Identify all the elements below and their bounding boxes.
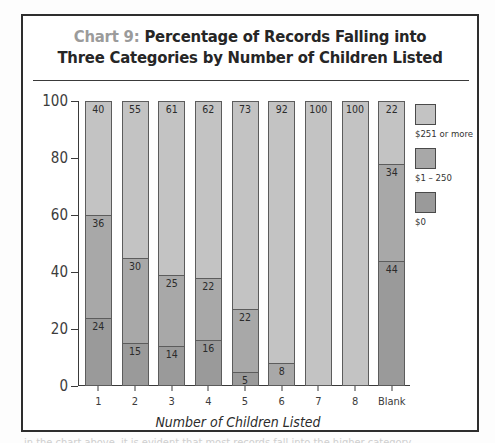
bar-slot: 5530152 (117, 101, 154, 386)
bar-segment-value: 25 (159, 277, 184, 289)
bar-segment-low[interactable]: 15 (122, 343, 149, 386)
bar-segment-value: 62 (196, 103, 221, 115)
bar-segment-high[interactable]: 22 (378, 101, 405, 164)
x-axis-tick (208, 386, 209, 391)
bar-segment-mid[interactable]: 36 (85, 215, 112, 318)
bar-segment-value: 8 (269, 365, 294, 377)
bar-segment-value: 24 (86, 320, 111, 332)
y-axis-line (78, 101, 79, 386)
stacked-bar[interactable]: 553015 (122, 101, 149, 386)
bar-slot: 6125143 (153, 101, 190, 386)
bar-segment-value: 5 (233, 374, 258, 386)
x-axis-title: Number of Children Listed (23, 414, 453, 430)
bar-segment-value: 22 (379, 103, 404, 115)
y-axis-label: 100 (42, 92, 68, 110)
bar-segment-high[interactable]: 62 (195, 101, 222, 278)
bar-segment-low[interactable]: 44 (378, 261, 405, 386)
bar-segment-mid[interactable]: 22 (232, 309, 259, 372)
bar-segment-high[interactable]: 55 (122, 101, 149, 258)
bar-segment-value: 30 (123, 260, 148, 272)
bar-segment-mid[interactable]: 25 (158, 275, 185, 346)
bar-slot: 1007 (300, 101, 337, 386)
bar-slot: 9286 (263, 101, 300, 386)
chart-title: Chart 9: Percentage of Records Falling i… (23, 26, 477, 68)
bar-segment-high[interactable]: 92 (268, 101, 295, 363)
bar-segment-value: 22 (233, 311, 258, 323)
title-divider (33, 80, 469, 81)
plot-area: 020406080100 403624155301526125143622216… (78, 101, 408, 386)
x-axis-tick (171, 386, 172, 391)
bar-segment-high[interactable]: 40 (85, 101, 112, 215)
stacked-bar[interactable]: 73225 (232, 101, 259, 386)
clipped-caption: in the chart above, it is evident that m… (24, 436, 474, 443)
x-axis-label: 6 (279, 395, 285, 408)
y-axis-label: 80 (51, 149, 68, 167)
chart-title-line-1: Chart 9: Percentage of Records Falling i… (23, 26, 477, 47)
y-axis-tick (71, 329, 78, 330)
bar-segment-mid[interactable]: 8 (268, 363, 295, 386)
x-axis-label: 1 (95, 395, 101, 408)
x-axis-tick (98, 386, 99, 391)
bar-segment-high[interactable]: 61 (158, 101, 185, 275)
chart-title-prefix: Chart 9: (74, 27, 140, 46)
x-axis-tick (391, 386, 392, 391)
bar-segment-mid[interactable]: 22 (195, 278, 222, 341)
y-axis-label: 0 (59, 377, 68, 395)
bar-segment-value: 34 (379, 166, 404, 178)
bar-segment-mid[interactable]: 34 (378, 164, 405, 261)
bar-slot: 1008 (337, 101, 374, 386)
clipped-caption-text: in the chart above, it is evident that m… (24, 436, 474, 443)
bar-segment-high[interactable]: 100 (342, 101, 369, 386)
y-axis-label: 20 (51, 320, 68, 338)
bar-segment-high[interactable]: 73 (232, 101, 259, 309)
y-axis-tick (71, 386, 78, 387)
legend-swatch-low (415, 192, 436, 213)
bar-group: 4036241553015261251436222164732255928610… (80, 101, 410, 386)
stacked-bar[interactable]: 612514 (158, 101, 185, 386)
chart-title-line-1-rest: Percentage of Records Falling into (139, 27, 426, 46)
legend-item[interactable]: $251 or more (415, 104, 495, 139)
stacked-bar[interactable]: 928 (268, 101, 295, 386)
bar-segment-mid[interactable]: 30 (122, 258, 149, 344)
bar-segment-low[interactable]: 14 (158, 346, 185, 386)
bar-segment-value: 15 (123, 345, 148, 357)
bar-slot: 4036241 (80, 101, 117, 386)
chart-page: Chart 9: Percentage of Records Falling i… (0, 0, 495, 443)
legend-label: $251 or more (415, 128, 495, 139)
y-axis-tick (71, 272, 78, 273)
legend-label: $0 (415, 216, 495, 227)
stacked-bar[interactable]: 223444 (378, 101, 405, 386)
bar-segment-value: 22 (196, 280, 221, 292)
bar-segment-low[interactable]: 16 (195, 340, 222, 386)
x-axis-label: 2 (132, 395, 138, 408)
legend-item[interactable]: $1 – 250 (415, 148, 495, 183)
bar-slot: 223444Blank (373, 101, 410, 386)
legend-item[interactable]: $0 (415, 192, 495, 227)
x-axis-label: 3 (169, 395, 175, 408)
bar-segment-value: 36 (86, 217, 111, 229)
x-axis-label: 5 (242, 395, 248, 408)
stacked-bar[interactable]: 403624 (85, 101, 112, 386)
y-axis-tick (71, 215, 78, 216)
bar-segment-value: 40 (86, 103, 111, 115)
x-axis-label: 8 (352, 395, 358, 408)
bar-slot: 732255 (227, 101, 264, 386)
x-axis-tick (245, 386, 246, 391)
bar-segment-value: 14 (159, 348, 184, 360)
bar-segment-low[interactable]: 5 (232, 372, 259, 386)
x-axis-tick (135, 386, 136, 391)
legend-swatch-high (415, 104, 436, 125)
bar-segment-value: 100 (306, 103, 331, 115)
chart-frame: Chart 9: Percentage of Records Falling i… (21, 14, 479, 432)
stacked-bar[interactable]: 622216 (195, 101, 222, 386)
x-axis-label: 7 (315, 395, 321, 408)
legend-label: $1 – 250 (415, 172, 495, 183)
stacked-bar[interactable]: 100 (342, 101, 369, 386)
bar-segment-value: 16 (196, 342, 221, 354)
x-axis-tick (355, 386, 356, 391)
stacked-bar[interactable]: 100 (305, 101, 332, 386)
bar-segment-low[interactable]: 24 (85, 318, 112, 386)
x-axis-tick (318, 386, 319, 391)
y-axis-label: 40 (51, 263, 68, 281)
bar-segment-high[interactable]: 100 (305, 101, 332, 386)
